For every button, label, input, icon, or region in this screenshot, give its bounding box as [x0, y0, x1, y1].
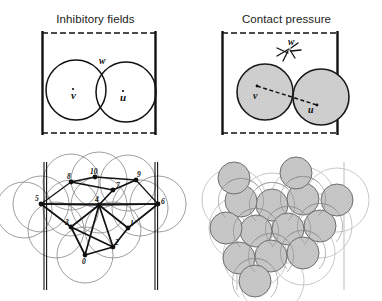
- node-label-8: 8: [67, 172, 71, 181]
- circle-packing-drawing: [191, 150, 382, 301]
- center-dot-u: [122, 90, 124, 92]
- disk: [218, 162, 250, 194]
- panel-contact-pressure: Contact pressure w: [191, 0, 382, 150]
- node-label-1: 1: [130, 219, 134, 228]
- node-label-10: 10: [90, 167, 98, 176]
- network-graph-drawing: 5 6 4 3 1 0 2 7 8 9 10: [0, 150, 191, 301]
- disk: [239, 265, 271, 297]
- node-label-7: 7: [116, 181, 120, 190]
- node-label-3: 3: [64, 218, 69, 227]
- center-dot-v: [256, 85, 259, 88]
- panel-network-graph: 5 6 4 3 1 0 2 7 8 9 10: [0, 150, 191, 301]
- label-edge-w: w: [99, 56, 106, 66]
- figure-root: Inhibitory fields v u w Contact pressure: [0, 0, 382, 301]
- node-label-0: 0: [82, 257, 86, 266]
- packed-disks: [210, 157, 353, 297]
- graph-edges: [41, 177, 158, 255]
- disk-u: [293, 69, 349, 125]
- node-label-9: 9: [137, 170, 141, 179]
- node-label-6: 6: [161, 197, 165, 206]
- panel-circle-packing: [191, 150, 382, 301]
- label-vertex-v: v: [253, 90, 258, 101]
- disk: [210, 212, 242, 244]
- node-label-2: 2: [114, 238, 119, 247]
- panel-title-inhibitory-fields: Inhibitory fields: [0, 13, 191, 25]
- label-edge-w: w: [288, 37, 295, 47]
- circle-v: [46, 60, 106, 120]
- center-dot-v: [72, 88, 74, 90]
- node-label-4: 4: [94, 195, 99, 204]
- disk-v: [237, 64, 293, 120]
- graph-edges-thin: [41, 180, 158, 204]
- center-dot-u: [316, 104, 319, 107]
- panel-inhibitory-fields: Inhibitory fields v u w: [0, 0, 191, 150]
- label-vertex-u: u: [120, 91, 126, 103]
- label-vertex-v: v: [71, 89, 76, 101]
- panel-title-contact-pressure: Contact pressure: [191, 13, 382, 25]
- node-label-5: 5: [35, 194, 39, 203]
- label-vertex-u: u: [308, 104, 314, 115]
- disk: [280, 157, 312, 189]
